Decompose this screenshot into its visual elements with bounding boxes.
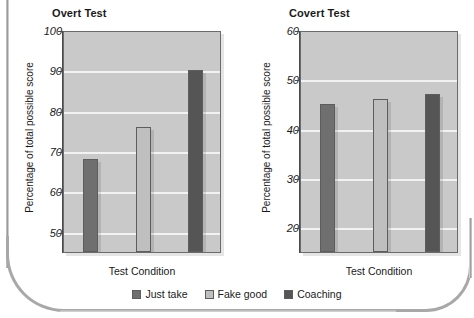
y-axis-ticks-covert: 2030405060 xyxy=(237,0,299,300)
legend-label: Coaching xyxy=(297,288,341,300)
bar-coaching xyxy=(188,70,203,252)
y-tick-label: 60 xyxy=(265,25,299,37)
legend-label: Fake good xyxy=(218,288,268,300)
legend: Just takeFake goodCoaching xyxy=(0,288,474,300)
bar-fake-good xyxy=(136,127,151,252)
y-tick-mark xyxy=(58,233,62,234)
legend-label: Just take xyxy=(145,288,187,300)
legend-item-fake-good: Fake good xyxy=(205,288,268,300)
y-tick-mark xyxy=(58,112,62,113)
y-tick-mark xyxy=(295,228,299,229)
y-tick-label: 90 xyxy=(28,65,62,77)
legend-swatch-icon xyxy=(284,290,293,299)
legend-item-coaching: Coaching xyxy=(284,288,341,300)
y-tick-label: 20 xyxy=(265,222,299,234)
figure-root: Overt Test Percentage of total possible … xyxy=(0,0,474,318)
y-tick-label: 80 xyxy=(28,106,62,118)
y-tick-label: 50 xyxy=(265,74,299,86)
y-tick-mark xyxy=(58,31,62,32)
page-frame-bottom-edge xyxy=(60,309,420,312)
y-axis-ticks-overt: 5060708090100 xyxy=(0,0,62,300)
x-axis-label-overt: Test Condition xyxy=(63,265,221,277)
bar-coaching xyxy=(425,94,440,252)
bar-fake-good xyxy=(373,99,388,252)
y-tick-mark xyxy=(295,130,299,131)
y-tick-label: 30 xyxy=(265,173,299,185)
legend-swatch-icon xyxy=(205,290,214,299)
y-tick-label: 40 xyxy=(265,124,299,136)
y-tick-mark xyxy=(58,152,62,153)
legend-item-just-take: Just take xyxy=(132,288,187,300)
plot-area-covert xyxy=(300,31,458,253)
legend-swatch-icon xyxy=(132,290,141,299)
bar-just-take xyxy=(320,104,335,252)
y-tick-label: 100 xyxy=(28,25,62,37)
bar-just-take xyxy=(83,159,98,252)
y-tick-mark xyxy=(295,80,299,81)
y-tick-mark xyxy=(58,192,62,193)
chart-panel-overt: Overt Test Percentage of total possible … xyxy=(0,0,237,300)
gridline xyxy=(301,80,457,82)
y-tick-mark xyxy=(295,179,299,180)
plot-area-overt xyxy=(63,31,221,253)
y-tick-mark xyxy=(58,71,62,72)
y-tick-mark xyxy=(295,31,299,32)
y-tick-label: 70 xyxy=(28,146,62,158)
y-tick-label: 50 xyxy=(28,227,62,239)
chart-panel-covert: Covert Test Percentage of total possible… xyxy=(237,0,474,300)
x-axis-label-covert: Test Condition xyxy=(300,265,458,277)
y-tick-label: 60 xyxy=(28,186,62,198)
